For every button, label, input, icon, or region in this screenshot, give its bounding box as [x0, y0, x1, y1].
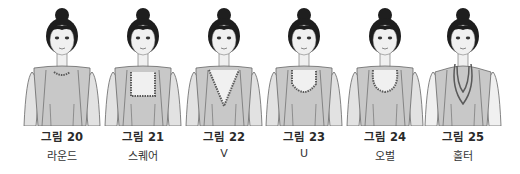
figure-halter-neckline: 그림 25 홀터 — [421, 0, 505, 174]
figure-number: 그림 21 — [101, 128, 185, 144]
figure-number: 그림 24 — [343, 128, 427, 144]
figure-illustration — [182, 8, 266, 126]
figure-u-neckline: 그림 23 U — [262, 0, 346, 174]
figure-illustration — [421, 8, 505, 126]
figure-oval-neckline: 그림 24 오벌 — [343, 0, 427, 174]
figure-round-neckline: 그림 20 라운드 — [20, 0, 104, 174]
figure-illustration — [20, 8, 104, 126]
figure-illustration — [343, 8, 427, 126]
neckline-label: 스퀘어 — [101, 147, 185, 163]
neckline-label: 홀터 — [421, 147, 505, 163]
figure-number: 그림 22 — [182, 128, 266, 144]
figure-illustration — [101, 8, 185, 126]
figure-number: 그림 25 — [421, 128, 505, 144]
neckline-label: 오벌 — [343, 147, 427, 163]
neckline-label: V — [182, 147, 266, 160]
figure-number: 그림 23 — [262, 128, 346, 144]
figure-v-neckline: 그림 22 V — [182, 0, 266, 174]
neckline-label: U — [262, 147, 346, 160]
figure-square-neckline: 그림 21 스퀘어 — [101, 0, 185, 174]
figure-number: 그림 20 — [20, 128, 104, 144]
figure-illustration — [262, 8, 346, 126]
neckline-label: 라운드 — [20, 147, 104, 163]
